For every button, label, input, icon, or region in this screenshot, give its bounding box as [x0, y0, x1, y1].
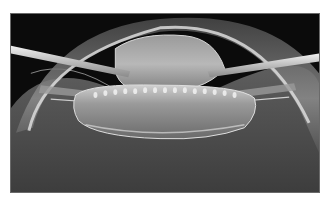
lens-illustration [11, 14, 319, 192]
photograph [10, 13, 320, 193]
